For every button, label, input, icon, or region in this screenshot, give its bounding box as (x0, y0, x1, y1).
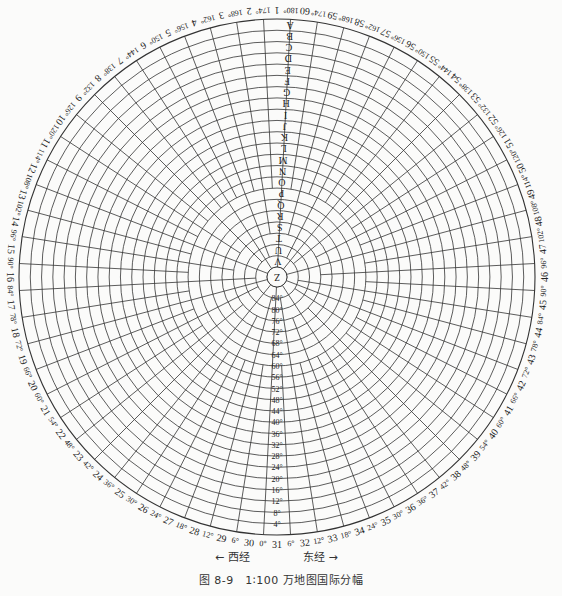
meridian-line (300, 363, 344, 526)
hemisphere-legend: ← 西经 东经 → (0, 548, 562, 564)
meridian-label: 114° (32, 147, 47, 164)
column-number: 2 (246, 6, 252, 17)
meridian-label: 72° (13, 340, 25, 353)
meridian-line (19, 278, 255, 290)
row-letter-S: S (277, 222, 283, 233)
column-number: 60 (299, 6, 310, 18)
latitude-labels: 4°8°12°16°20°24°28°32°36°40°44°48°52°56°… (271, 294, 282, 528)
column-number: 37 (427, 486, 442, 501)
meridian-label: 90° (6, 257, 16, 269)
column-number: 31 (272, 539, 282, 549)
column-number: 32 (299, 537, 310, 548)
row-letter-L: L (281, 143, 287, 154)
meridian-label: 108° (21, 173, 35, 190)
column-number: 4 (190, 17, 198, 29)
meridian-line (288, 28, 343, 235)
row-letter-M: M (279, 155, 288, 166)
meridian-label: 66° (508, 391, 521, 405)
meridian-line (95, 95, 262, 262)
meridian-label: 30° (391, 508, 405, 521)
meridian-line (264, 19, 273, 188)
column-number: 1 (275, 5, 280, 16)
row-letter-K: K (280, 132, 288, 143)
column-number: 17 (6, 299, 18, 310)
meridian-line (210, 298, 271, 527)
meridian-line (325, 61, 417, 203)
meridian-line (210, 28, 254, 191)
column-number: 41 (501, 403, 516, 417)
column-number: 42 (514, 379, 528, 393)
meridian-label: 36° (102, 477, 116, 491)
meridian-label: 48° (62, 438, 76, 452)
meridian-line (291, 22, 317, 189)
column-number: 40 (486, 427, 501, 442)
meridian-line (19, 264, 188, 273)
column-number: 59 (326, 9, 338, 22)
meridian-label: 102° (535, 227, 546, 243)
meridian-label: 42° (81, 459, 95, 473)
row-letter-R: R (277, 211, 284, 222)
meridian-label: 0° (259, 539, 267, 548)
meridian-line (136, 352, 228, 494)
east-longitude-label: 东经 → (303, 548, 338, 564)
latitude-label: 24° (271, 463, 282, 472)
meridian-label: 60° (494, 415, 508, 429)
column-number: 6 (139, 40, 149, 52)
meridian-line (28, 210, 191, 254)
meridian-label: 24° (149, 508, 163, 521)
column-number: 25 (113, 486, 128, 501)
row-letter-V: V (273, 256, 281, 267)
meridian-label: 108° (529, 199, 542, 216)
meridian-label: 72° (520, 366, 532, 380)
meridian-label: 120° (507, 147, 522, 165)
meridian-label: 156° (389, 32, 407, 47)
column-number: 15 (6, 244, 18, 255)
meridian-label: 18° (340, 529, 353, 541)
meridian-label: 78° (529, 340, 541, 353)
west-longitude-label: ← 西经 (215, 548, 250, 564)
row-letter-T: T (276, 233, 282, 244)
latitude-label: 56° (271, 373, 282, 382)
column-number: 14 (9, 215, 22, 227)
column-number: 34 (353, 524, 366, 538)
meridian-line (36, 309, 194, 370)
meridian-line (115, 285, 271, 478)
latitude-label: 12° (271, 497, 282, 506)
meridian-line (283, 77, 439, 270)
row-letter-N: N (279, 166, 286, 177)
meridian-label: 162° (364, 21, 381, 35)
meridian-line (352, 136, 494, 228)
row-letter-P: P (278, 188, 284, 199)
meridian-line (321, 264, 535, 275)
meridian-line (317, 356, 394, 507)
column-number: 45 (537, 299, 549, 310)
column-number: 30 (244, 537, 255, 548)
row-letter-D: D (285, 53, 292, 64)
meridian-line (286, 281, 518, 370)
column-number: 16 (5, 272, 16, 282)
meridian-label: 180° (283, 6, 299, 16)
meridian-line (287, 210, 527, 274)
row-letter-J: J (283, 121, 287, 132)
meridian-label: 84° (535, 313, 546, 325)
meridian-line (61, 325, 203, 417)
row-letter-C: C (285, 42, 292, 53)
meridian-label: 144° (123, 45, 141, 61)
row-letter-E: E (285, 65, 291, 76)
column-number: 20 (26, 379, 40, 393)
meridian-label: 12° (313, 535, 325, 546)
latitude-label: 20° (271, 475, 282, 484)
latitude-label: 76° (271, 317, 282, 326)
latitude-label: 44° (271, 407, 282, 416)
column-number: 48 (532, 215, 545, 227)
meridian-label: 42° (438, 477, 452, 491)
meridian-line (237, 365, 263, 532)
meridian-label: 102° (13, 199, 26, 216)
meridian-line (363, 300, 526, 344)
column-number: 43 (524, 353, 538, 366)
column-number: 26 (136, 501, 150, 516)
meridian-line (95, 340, 215, 460)
meridian-label: 150° (147, 32, 165, 47)
meridian-line (185, 360, 246, 518)
latitude-label: 52° (271, 385, 282, 394)
